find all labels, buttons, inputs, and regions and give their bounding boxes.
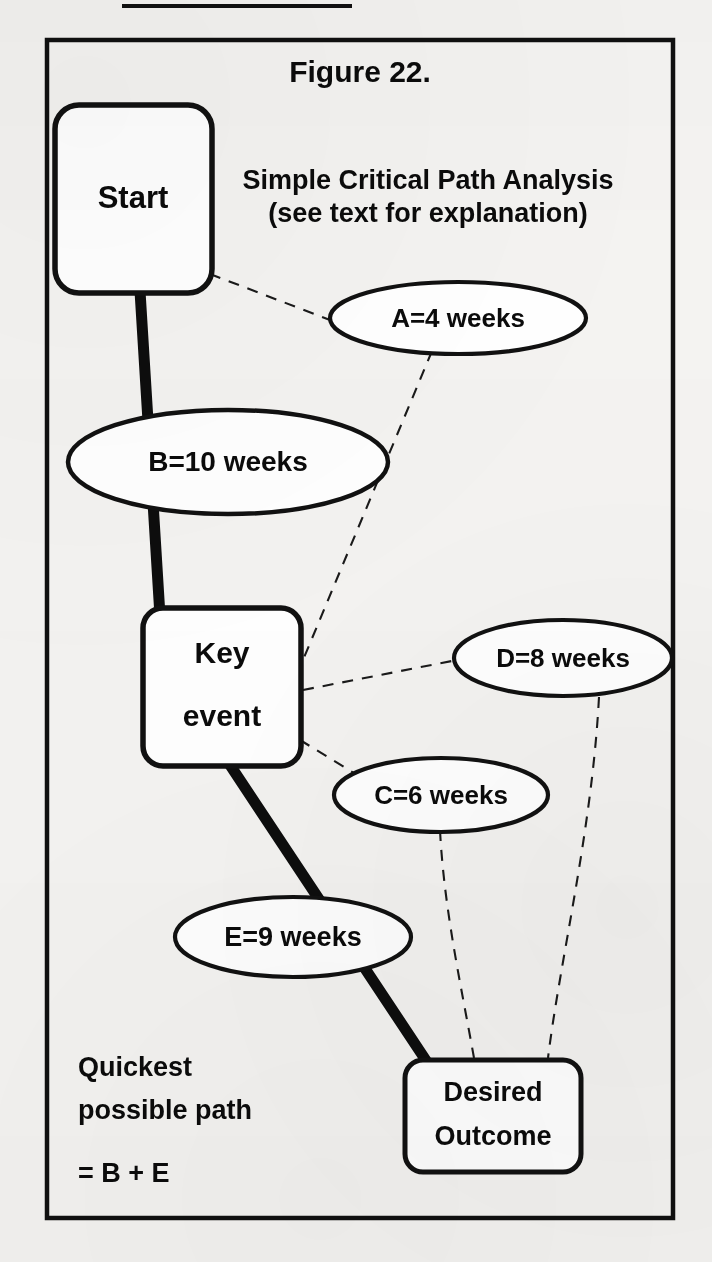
edge-key-event-to-d [303, 660, 457, 690]
node-start[interactable]: Start [55, 105, 212, 293]
desired-outcome-label-line1: Desired [443, 1077, 542, 1107]
figure-title-line1: Simple Critical Path Analysis [242, 165, 613, 195]
key-event-label-line2: event [183, 699, 261, 732]
activity-ellipse-b[interactable]: B=10 weeks [68, 410, 388, 514]
critical-path-diagram: Start Key event Desired Outcome A=4 week… [0, 0, 712, 1262]
desired-outcome-label-line2: Outcome [434, 1121, 551, 1151]
activity-c-label: C=6 weeks [374, 780, 508, 810]
node-desired-outcome[interactable]: Desired Outcome [405, 1060, 581, 1172]
activity-d-label: D=8 weeks [496, 643, 630, 673]
activity-ellipse-c[interactable]: C=6 weeks [334, 758, 548, 832]
activity-e-label: E=9 weeks [224, 922, 361, 952]
activity-ellipse-a[interactable]: A=4 weeks [330, 282, 586, 354]
legend-line3: = B + E [78, 1158, 170, 1188]
start-label: Start [98, 180, 169, 215]
edge-c-to-desired-outcome [440, 830, 474, 1058]
activity-ellipse-d[interactable]: D=8 weeks [454, 620, 672, 696]
edge-start-to-a [210, 274, 330, 320]
legend-line1: Quickest [78, 1052, 192, 1082]
key-event-box-outline [143, 608, 301, 766]
edge-d-to-desired-outcome [548, 697, 599, 1058]
figure-number-label: Figure 22. [289, 55, 431, 88]
figure-title-line2: (see text for explanation) [268, 198, 588, 228]
key-event-label-line1: Key [194, 636, 249, 669]
activity-b-label: B=10 weeks [148, 446, 308, 477]
node-key-event[interactable]: Key event [143, 608, 301, 766]
activity-ellipse-e[interactable]: E=9 weeks [175, 897, 411, 977]
figure-page: Start Key event Desired Outcome A=4 week… [0, 0, 712, 1262]
legend-line2: possible path [78, 1095, 252, 1125]
activity-a-label: A=4 weeks [391, 303, 525, 333]
